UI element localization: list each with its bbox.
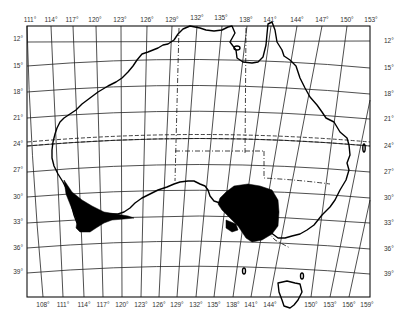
- svg-text:111°: 111°: [24, 16, 37, 23]
- svg-text:114°: 114°: [78, 301, 91, 308]
- svg-text:144°: 144°: [290, 16, 304, 23]
- svg-text:126°: 126°: [140, 16, 154, 23]
- svg-text:129°: 129°: [165, 16, 179, 23]
- svg-text:39°: 39°: [384, 270, 394, 277]
- svg-text:108°: 108°: [36, 301, 50, 308]
- svg-text:36°: 36°: [13, 244, 23, 251]
- svg-text:120°: 120°: [88, 16, 102, 23]
- svg-text:24°: 24°: [13, 140, 23, 147]
- svg-text:153°: 153°: [323, 301, 337, 308]
- svg-text:114°: 114°: [45, 16, 58, 23]
- australia-map: 111° 114° 117° 120° 123° 126° 129° 132° …: [0, 0, 405, 319]
- svg-text:141°: 141°: [263, 16, 277, 23]
- svg-text:147°: 147°: [315, 16, 329, 23]
- svg-text:18°: 18°: [384, 90, 394, 97]
- svg-text:30°: 30°: [13, 193, 23, 200]
- svg-text:141°: 141°: [244, 301, 258, 308]
- svg-text:33°: 33°: [13, 218, 23, 225]
- svg-text:150°: 150°: [304, 301, 318, 308]
- svg-text:123°: 123°: [134, 301, 148, 308]
- svg-text:12°: 12°: [13, 35, 23, 42]
- svg-text:138°: 138°: [239, 16, 253, 23]
- svg-text:27°: 27°: [13, 166, 23, 173]
- svg-text:138°: 138°: [226, 301, 240, 308]
- svg-text:156°: 156°: [342, 301, 356, 308]
- svg-text:33°: 33°: [384, 219, 394, 226]
- svg-text:153°: 153°: [364, 16, 378, 23]
- svg-text:21°: 21°: [13, 114, 23, 121]
- svg-text:150°: 150°: [340, 16, 354, 23]
- svg-text:111°: 111°: [57, 301, 70, 308]
- svg-text:135°: 135°: [214, 14, 228, 21]
- svg-text:117°: 117°: [66, 16, 79, 23]
- svg-text:132°: 132°: [189, 301, 203, 308]
- svg-text:39°: 39°: [13, 268, 23, 275]
- svg-text:36°: 36°: [384, 245, 394, 252]
- svg-text:18°: 18°: [13, 88, 23, 95]
- svg-text:132°: 132°: [190, 14, 204, 21]
- svg-text:24°: 24°: [384, 142, 394, 149]
- svg-text:15°: 15°: [13, 62, 23, 69]
- svg-text:144°: 144°: [263, 301, 277, 308]
- svg-text:120°: 120°: [115, 301, 129, 308]
- svg-text:21°: 21°: [384, 115, 394, 122]
- svg-text:117°: 117°: [97, 301, 110, 308]
- svg-text:159°: 159°: [360, 301, 374, 308]
- svg-text:129°: 129°: [170, 301, 184, 308]
- svg-text:123°: 123°: [113, 16, 127, 23]
- svg-text:12°: 12°: [384, 37, 394, 44]
- svg-text:15°: 15°: [384, 64, 394, 71]
- svg-text:30°: 30°: [384, 194, 394, 201]
- svg-text:27°: 27°: [384, 168, 394, 175]
- svg-text:126°: 126°: [152, 301, 166, 308]
- svg-text:135°: 135°: [207, 301, 221, 308]
